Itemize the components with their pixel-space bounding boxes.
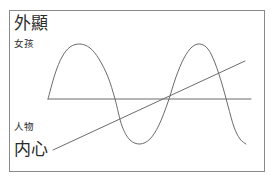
label-inner-heart: 内心: [14, 141, 48, 158]
label-girl-series: 女孩: [14, 39, 34, 49]
label-character-series: 人物: [14, 122, 34, 132]
diagram-root: 外顯 女孩 人物 内心: [0, 0, 278, 185]
label-outer-appearance: 外顯: [14, 15, 48, 32]
